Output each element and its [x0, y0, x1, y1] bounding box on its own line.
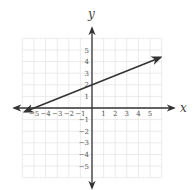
x-tick-label: −4 [40, 110, 51, 118]
y-tick-label: 3 [85, 70, 89, 78]
x-tick-label: −5 [29, 110, 39, 118]
y-tick-label: −4 [79, 151, 90, 159]
y-tick-label: −1 [79, 116, 89, 124]
y-tick-label: −2 [79, 128, 89, 136]
y-tick-label: 1 [85, 93, 89, 101]
x-tick-label: −2 [64, 110, 74, 118]
x-axis-label: x [180, 101, 187, 115]
x-tick-label: 2 [113, 110, 117, 118]
y-tick-label: −3 [79, 139, 89, 147]
x-tick-label: −3 [52, 110, 62, 118]
y-tick-label: 5 [85, 47, 89, 55]
y-tick-label: 4 [85, 58, 90, 66]
x-tick-label: 3 [125, 110, 129, 118]
x-tick-label: 1 [101, 110, 105, 118]
x-tick-label: 5 [148, 110, 152, 118]
coordinate-plane: −5−4−3−2−11234554321−1−2−3−4−5 x y [0, 0, 196, 190]
y-axis-label: y [87, 7, 95, 21]
y-tick-label: −5 [79, 163, 89, 171]
x-tick-label: 4 [136, 110, 141, 118]
